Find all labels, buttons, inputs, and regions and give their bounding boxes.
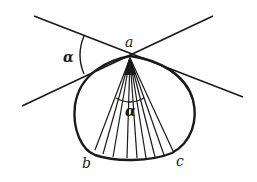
label-b: b <box>82 155 91 171</box>
label-inner-alpha: α <box>125 103 136 119</box>
diagram-canvas: a α α b c <box>0 0 257 182</box>
vertex-wedge <box>124 56 136 75</box>
label-vertex-a: a <box>125 34 133 50</box>
label-outer-alpha: α <box>63 49 74 65</box>
label-c: c <box>176 153 184 169</box>
outer-angle-arc <box>80 36 84 74</box>
